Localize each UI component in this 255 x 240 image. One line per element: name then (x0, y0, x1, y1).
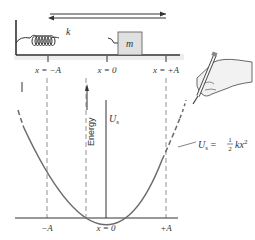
equation-rhs: kx2 (235, 138, 248, 150)
mass-label: m (126, 38, 133, 49)
y-axis-label: Energy (86, 117, 96, 146)
x-axis: −A x = 0 +A (15, 218, 178, 233)
x-tick-neg-A: −A (41, 223, 53, 233)
frac-den: 2 (228, 145, 232, 153)
spring-constant-label: k (66, 26, 71, 37)
position-label-zero: x = 0 (96, 65, 117, 75)
energy-equation: Us = 1 2 kx2 (198, 136, 248, 153)
motion-arrows (48, 12, 166, 21)
energy-axis: Energy Us (22, 82, 119, 218)
hand-drawing-icon (193, 51, 252, 104)
x-tick-pos-A: +A (160, 223, 172, 233)
potential-energy-curve (18, 100, 196, 225)
spring-energy-diagram: k m x = −A x = 0 x = +A Energy Us −A x =… (0, 0, 255, 240)
equation-lhs: Us = (198, 139, 216, 152)
position-label-pos-A: x = +A (152, 65, 180, 75)
frac-num: 1 (228, 136, 232, 144)
position-label-neg-A: x = −A (34, 65, 62, 75)
spring: k (16, 26, 118, 46)
mass-block: m (118, 32, 142, 55)
curve-label-top: Us (109, 113, 119, 126)
